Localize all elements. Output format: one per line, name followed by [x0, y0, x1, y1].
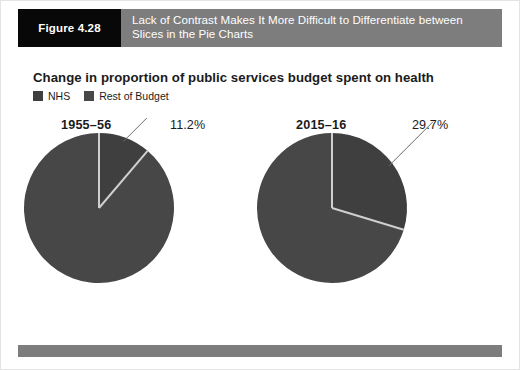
legend-item-nhs: NHS — [33, 90, 70, 102]
legend-label-rest-of-budget: Rest of Budget — [99, 90, 168, 102]
legend-item-rest-of-budget: Rest of Budget — [84, 90, 168, 102]
figure-header-bar: Figure 4.28 Lack of Contrast Makes It Mo… — [18, 9, 502, 47]
legend-label-nhs: NHS — [48, 90, 70, 102]
pie-svg-left — [18, 118, 248, 333]
pie-slices-left — [24, 133, 174, 283]
legend-swatch-nhs — [33, 91, 43, 101]
legend-swatch-rest-of-budget — [84, 91, 94, 101]
chart-legend: NHS Rest of Budget — [33, 90, 169, 102]
pie-slices-right — [257, 133, 407, 283]
chart-container: Change in proportion of public services … — [18, 56, 502, 338]
chart-title: Change in proportion of public services … — [33, 70, 434, 85]
figure-page: Figure 4.28 Lack of Contrast Makes It Mo… — [0, 0, 520, 370]
pie-leader-line-left — [123, 118, 149, 141]
pie-svg-right — [251, 118, 481, 333]
pie-chart-2015-16: 2015–16 29.7% — [251, 118, 481, 333]
figure-number-tag: Figure 4.28 — [18, 9, 121, 47]
pie-leader-line-right — [389, 122, 433, 166]
footer-rule — [18, 345, 502, 357]
figure-caption: Lack of Contrast Makes It More Difficult… — [121, 9, 502, 47]
pie-chart-1955-56: 1955–56 11.2% — [18, 118, 248, 333]
